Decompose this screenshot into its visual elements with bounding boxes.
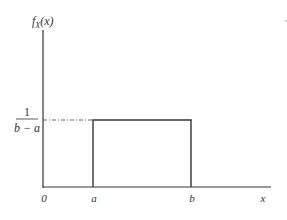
density-rectangle: [93, 120, 191, 187]
uniform-pdf-diagram: fX(x) 1 b − a 0 a b x: [0, 0, 287, 220]
height-label-denominator: b − a: [14, 121, 40, 135]
height-label-numerator: 1: [24, 105, 30, 119]
x-axis-label: x: [260, 192, 266, 204]
stray-mark: [285, 20, 286, 21]
upper-bound-label: b: [189, 192, 195, 204]
lower-bound-label: a: [91, 192, 97, 204]
origin-label: 0: [41, 192, 47, 204]
y-axis-label: fX(x): [32, 14, 54, 30]
